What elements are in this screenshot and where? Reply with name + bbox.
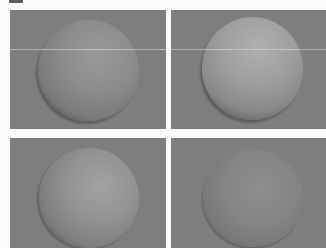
- sphere-bottom-right: [203, 149, 303, 247]
- corner-mark: [9, 0, 23, 3]
- figure: shaded sphere shaded sphere shaded spher…: [0, 0, 326, 248]
- panel-top-left: [10, 10, 166, 129]
- scan-line: [10, 49, 326, 50]
- panel-bottom-right: [171, 138, 326, 248]
- sphere-top-left: [38, 20, 139, 121]
- panel-top-right: [171, 10, 326, 129]
- sphere-bottom-left: [39, 148, 139, 248]
- panel-bottom-left: [10, 138, 166, 248]
- sphere-top-right: [202, 17, 303, 120]
